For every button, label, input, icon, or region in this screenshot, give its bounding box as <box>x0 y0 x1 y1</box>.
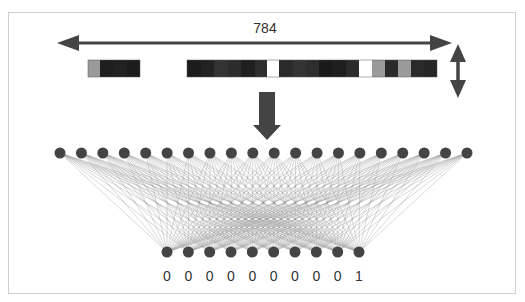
pixel-cell <box>332 60 346 77</box>
input-node <box>440 148 451 159</box>
pixel-cell <box>267 60 279 77</box>
connection-edge <box>124 153 167 252</box>
width-arrow-icon <box>57 35 452 51</box>
output-label: 0 <box>206 268 214 284</box>
input-node <box>162 148 173 159</box>
pixel-cell <box>319 60 332 77</box>
network-diagram: 784 0000000001 <box>0 0 525 302</box>
output-node <box>204 247 215 258</box>
input-node <box>269 148 280 159</box>
pixel-cell <box>306 60 319 77</box>
connection-edge <box>295 153 467 252</box>
pixel-cell <box>228 60 241 77</box>
output-label: 0 <box>312 268 320 284</box>
height-arrow-icon <box>450 44 466 98</box>
input-layer <box>55 148 473 159</box>
pixel-cell <box>293 60 306 77</box>
input-node <box>312 148 323 159</box>
output-node <box>226 247 237 258</box>
input-node <box>462 148 473 159</box>
pixel-cell <box>187 60 201 77</box>
output-labels: 0000000001 <box>163 268 363 284</box>
input-node <box>97 148 108 159</box>
input-node <box>376 148 387 159</box>
output-label: 0 <box>291 268 299 284</box>
input-pixel-strip <box>88 60 437 77</box>
pixel-cell <box>346 60 359 77</box>
input-node <box>419 148 430 159</box>
output-node <box>247 247 258 258</box>
output-node <box>268 247 279 258</box>
connection-edge <box>81 153 167 252</box>
pixel-cell <box>100 60 113 77</box>
pixel-cell <box>359 60 372 77</box>
pixel-cell <box>398 60 411 77</box>
pixel-cell <box>411 60 424 77</box>
output-layer <box>162 247 365 258</box>
pixel-cell <box>424 60 437 77</box>
output-label: 0 <box>227 268 235 284</box>
input-node <box>290 148 301 159</box>
arrowhead-left-icon <box>57 35 79 51</box>
pixel-cell <box>385 60 398 77</box>
arrowhead-right-icon <box>430 35 452 51</box>
output-label: 0 <box>248 268 256 284</box>
input-node <box>354 148 365 159</box>
pixel-cell <box>88 60 100 77</box>
output-label: 0 <box>184 268 192 284</box>
input-node <box>183 148 194 159</box>
pixel-cell <box>214 60 228 77</box>
pixel-cell <box>279 60 293 77</box>
pixel-cell <box>255 60 267 77</box>
output-label: 1 <box>355 268 363 284</box>
output-node <box>311 247 322 258</box>
down-arrow-icon <box>253 92 281 140</box>
pixel-cell <box>241 60 255 77</box>
pixel-cell <box>127 60 140 77</box>
output-label: 0 <box>334 268 342 284</box>
pixel-cell <box>201 60 214 77</box>
pixel-cell <box>372 60 385 77</box>
output-node <box>162 247 173 258</box>
pixel-cell <box>113 60 127 77</box>
input-node <box>119 148 130 159</box>
connection-edge <box>338 153 467 252</box>
input-node <box>247 148 258 159</box>
input-node <box>226 148 237 159</box>
input-node <box>333 148 344 159</box>
input-node <box>204 148 215 159</box>
output-node <box>290 247 301 258</box>
input-node <box>397 148 408 159</box>
output-node <box>332 247 343 258</box>
output-label: 0 <box>270 268 278 284</box>
output-label: 0 <box>163 268 171 284</box>
connection-edges <box>60 153 467 252</box>
output-node <box>354 247 365 258</box>
output-node <box>183 247 194 258</box>
input-node <box>140 148 151 159</box>
input-node <box>76 148 87 159</box>
width-label: 784 <box>253 20 277 36</box>
input-node <box>55 148 66 159</box>
